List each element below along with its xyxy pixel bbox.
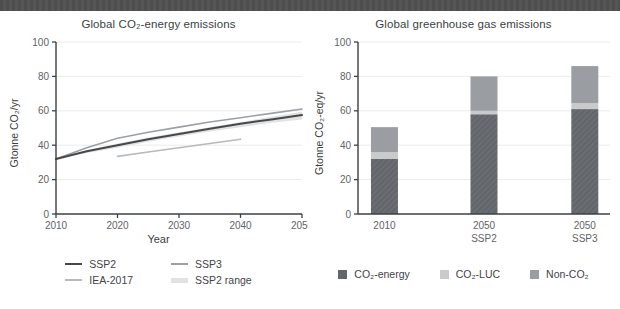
legend-item-ssp3: SSP3 xyxy=(171,258,252,270)
legend-label: CO₂-LUC xyxy=(456,268,500,280)
bar-chart-panel: Global greenhouse gas emissions Gtonne C… xyxy=(311,11,616,286)
legend-item-ssp2: SSP2 xyxy=(65,258,133,270)
legend-swatch-iea-2017 xyxy=(65,279,82,281)
svg-text:0: 0 xyxy=(43,209,49,220)
legend-label: SSP2 xyxy=(89,258,116,270)
svg-text:60: 60 xyxy=(37,105,49,116)
legend-item-co-luc: CO₂-LUC xyxy=(440,268,500,280)
line-chart-ylabel: Gtonne CO₂/yr xyxy=(7,53,21,213)
svg-text:40: 40 xyxy=(339,140,351,151)
svg-text:100: 100 xyxy=(334,37,351,48)
legend-label: SSP3 xyxy=(195,258,222,270)
legend-swatch-non-co xyxy=(530,270,539,279)
line-chart-legend: SSP2SSP3IEA-2017SSP2 range xyxy=(6,258,311,286)
figure-page: Global CO₂-energy emissions Gtonne CO₂/y… xyxy=(0,0,620,309)
svg-text:80: 80 xyxy=(37,71,49,82)
line-chart-title: Global CO₂-energy emissions xyxy=(6,18,311,30)
legend-swatch-co-energy xyxy=(338,270,347,279)
legend-item-non-co: Non-CO₂ xyxy=(530,268,589,280)
legend-label: CO₂-energy xyxy=(354,268,409,280)
line-chart-panel: Global CO₂-energy emissions Gtonne CO₂/y… xyxy=(6,11,311,286)
legend-swatch-ssp3 xyxy=(171,263,188,265)
svg-text:0: 0 xyxy=(345,209,351,220)
svg-text:2050: 2050 xyxy=(290,220,307,231)
legend-swatch-co-luc xyxy=(440,270,449,279)
legend-swatch-ssp2 xyxy=(65,263,82,265)
svg-text:40: 40 xyxy=(37,140,49,151)
line-chart: 02040608010020102020203020402050 xyxy=(10,32,308,232)
svg-text:20: 20 xyxy=(339,174,351,185)
bar-chart: 02040608010020102050SSP22050SSP3 xyxy=(314,32,614,246)
bar-chart-ylabel: Gtonne CO₂-eq/yr xyxy=(312,53,326,213)
svg-text:20: 20 xyxy=(37,174,49,185)
legend-label: Non-CO₂ xyxy=(546,268,589,280)
legend-item-iea-2017: IEA-2017 xyxy=(65,274,133,286)
legend-item-co-energy: CO₂-energy xyxy=(338,268,409,280)
legend-swatch-ssp2-range xyxy=(171,278,188,283)
svg-text:100: 100 xyxy=(32,37,49,48)
svg-text:SSP3: SSP3 xyxy=(572,233,598,244)
line-chart-xlabel: Year xyxy=(6,233,311,245)
svg-text:80: 80 xyxy=(339,71,351,82)
charts-row: Global CO₂-energy emissions Gtonne CO₂/y… xyxy=(0,11,620,286)
svg-text:60: 60 xyxy=(339,105,351,116)
bar-chart-legend: CO₂-energyCO₂-LUCNon-CO₂ xyxy=(311,268,616,280)
svg-text:SSP2: SSP2 xyxy=(471,233,497,244)
svg-text:2030: 2030 xyxy=(167,220,190,231)
svg-text:2050: 2050 xyxy=(472,220,495,231)
legend-label: IEA-2017 xyxy=(89,274,133,286)
bar-chart-title: Global greenhouse gas emissions xyxy=(311,18,616,30)
svg-text:2010: 2010 xyxy=(44,220,67,231)
legend-item-ssp2-range: SSP2 range xyxy=(171,274,252,286)
svg-text:2040: 2040 xyxy=(229,220,252,231)
svg-text:2050: 2050 xyxy=(573,220,596,231)
legend-label: SSP2 range xyxy=(195,274,252,286)
header-strip xyxy=(0,0,620,11)
svg-text:2020: 2020 xyxy=(106,220,129,231)
svg-text:2010: 2010 xyxy=(373,220,396,231)
